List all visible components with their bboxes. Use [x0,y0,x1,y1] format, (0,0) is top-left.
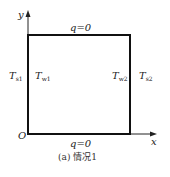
domain-box [28,35,130,134]
x-axis-label: x [151,136,157,147]
top-boundary-label: q=0 [70,22,91,33]
right-outer-temp-label: Ts2 [139,70,153,82]
y-axis-arrow-icon [26,10,31,17]
left-outer-temp-label: Ts1 [9,70,23,82]
origin-label: O [18,130,26,141]
left-inner-temp-label: Tw1 [35,70,51,82]
figure-caption: (a) 情况1 [58,150,97,163]
y-axis-label: y [18,9,24,20]
bottom-boundary-label: q=0 [70,138,91,149]
right-inner-temp-label: Tw2 [112,70,128,82]
